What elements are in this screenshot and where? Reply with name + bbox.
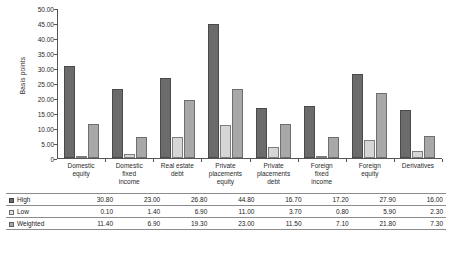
bar-group (153, 9, 201, 158)
y-axis-tick-mark (54, 24, 57, 25)
table-cell-value: 6.90 (163, 206, 210, 218)
y-axis-tick-label: 50.00 (26, 6, 54, 13)
x-axis-category-label: Privateplacementsequity (201, 162, 249, 192)
bar-weighted[interactable] (376, 93, 387, 158)
table-cell-value: 16.70 (257, 194, 304, 206)
x-axis-category-label: Domesticequity (57, 162, 105, 192)
y-axis-tick-mark (54, 9, 57, 10)
table-cell-value: 11.50 (257, 218, 304, 230)
y-axis-tick-label: 0 (26, 156, 54, 163)
y-axis-tick-label: 15.00 (26, 111, 54, 118)
table-cell-value: 1.40 (116, 206, 163, 218)
bar-high[interactable] (304, 106, 315, 158)
series-name: Weighted (17, 220, 44, 227)
bar-high[interactable] (400, 110, 411, 158)
table-cell-value: 0.10 (69, 206, 116, 218)
table-cell-value: 23.00 (210, 218, 257, 230)
y-axis-tick-label: 40.00 (26, 36, 54, 43)
bar-weighted[interactable] (184, 100, 195, 158)
y-axis-tick-mark (54, 99, 57, 100)
table-cell-value: 30.80 (69, 194, 116, 206)
bar-low[interactable] (316, 156, 327, 158)
bar-groups (57, 9, 442, 158)
bar-high[interactable] (64, 66, 75, 158)
bar-group (105, 9, 153, 158)
y-axis-tick-labels: 50.0045.0040.0035.0030.0025.0020.0015.00… (26, 9, 54, 159)
y-axis-tick-mark (54, 159, 57, 160)
bar-weighted[interactable] (136, 137, 147, 158)
table-cell-value: 3.70 (257, 206, 304, 218)
y-axis-tick-mark (54, 114, 57, 115)
x-axis-category-label: Foreignfixedincome (298, 162, 346, 192)
table-row: Weighted11.406.9019.3023.0011.507.1021.8… (6, 218, 446, 230)
y-axis-tick-mark (54, 84, 57, 85)
y-axis-tick-mark (54, 69, 57, 70)
y-axis-tick-label: 10.00 (26, 126, 54, 133)
bar-group (298, 9, 346, 158)
plot-area (57, 9, 442, 159)
y-axis-tick-mark (54, 129, 57, 130)
legend-swatch-icon (9, 198, 14, 203)
table-cell-value: 16.00 (399, 194, 446, 206)
table-cell-value: 5.90 (352, 206, 399, 218)
bar-chart: Basis points 50.0045.0040.0035.0030.0025… (0, 0, 452, 192)
y-axis-title: Basis points (19, 36, 26, 116)
y-axis-tick-label: 35.00 (26, 51, 54, 58)
y-axis-tick-label: 20.00 (26, 96, 54, 103)
x-axis-category-label: Privateplacementsdebt (250, 162, 298, 192)
y-axis-tick-mark (54, 39, 57, 40)
data-table: High30.8023.0026.8044.8016.7017.2027.901… (6, 193, 446, 230)
x-axis-category-label: Foreignequity (346, 162, 394, 192)
bar-weighted[interactable] (88, 124, 99, 158)
legend-swatch-icon (9, 222, 14, 227)
bar-group (201, 9, 249, 158)
bar-low[interactable] (268, 147, 279, 158)
table-row: High30.8023.0026.8044.8016.7017.2027.901… (6, 194, 446, 206)
series-name: High (17, 196, 30, 203)
x-axis-category-labels: DomesticequityDomesticfixedincomeReal es… (57, 162, 442, 192)
table-cell-value: 44.80 (210, 194, 257, 206)
bar-low[interactable] (172, 137, 183, 158)
bar-group (57, 9, 105, 158)
table-cell-value: 11.40 (69, 218, 116, 230)
table-cell-value: 23.00 (116, 194, 163, 206)
table-cell-value: 19.30 (163, 218, 210, 230)
table-row: Low0.101.406.9011.003.700.805.902.30 (6, 206, 446, 218)
bar-low[interactable] (220, 125, 231, 158)
table-cell-value: 17.20 (305, 194, 352, 206)
bar-high[interactable] (160, 78, 171, 158)
bar-high[interactable] (208, 24, 219, 158)
table-row-header: High (6, 194, 69, 206)
legend-swatch-icon (9, 210, 14, 215)
bar-low[interactable] (364, 140, 375, 158)
x-axis-category-label: Domesticfixedincome (105, 162, 153, 192)
table-row-header: Low (6, 206, 69, 218)
bar-group (250, 9, 298, 158)
table-row-header: Weighted (6, 218, 69, 230)
x-axis-tick-mark (442, 159, 443, 162)
bar-weighted[interactable] (280, 124, 291, 159)
table-cell-value: 21.80 (352, 218, 399, 230)
bar-group (394, 9, 442, 158)
table-cell-value: 11.00 (210, 206, 257, 218)
y-axis-tick-label: 25.00 (26, 81, 54, 88)
bar-high[interactable] (112, 89, 123, 158)
bar-low[interactable] (412, 151, 423, 158)
bar-weighted[interactable] (328, 137, 339, 158)
bar-low[interactable] (124, 154, 135, 158)
bar-high[interactable] (352, 74, 363, 158)
y-axis-tick-label: 5.00 (26, 141, 54, 148)
x-axis-category-label: Real estatedebt (153, 162, 201, 192)
x-axis-category-label: Derivatives (394, 162, 442, 192)
table-cell-value: 0.80 (305, 206, 352, 218)
bar-high[interactable] (256, 108, 267, 158)
bar-low[interactable] (76, 156, 87, 158)
table-cell-value: 27.90 (352, 194, 399, 206)
chart-page: Basis points 50.0045.0040.0035.0030.0025… (0, 0, 452, 254)
y-axis-tick-mark (54, 54, 57, 55)
bar-weighted[interactable] (424, 136, 435, 158)
y-axis-tick-label: 45.00 (26, 21, 54, 28)
table-cell-value: 7.30 (399, 218, 446, 230)
bar-weighted[interactable] (232, 89, 243, 158)
table-cell-value: 6.90 (116, 218, 163, 230)
